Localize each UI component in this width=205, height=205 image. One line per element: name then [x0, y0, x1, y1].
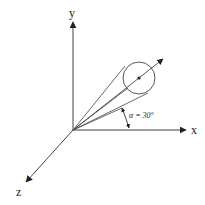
diagram-figure: y x z α = 30°: [0, 0, 205, 205]
cone-edge-upper: [73, 66, 125, 130]
z-axis-label: z: [16, 185, 21, 199]
angle-label: α = 30°: [129, 111, 155, 120]
figure-caption: [18, 199, 205, 205]
z-axis: [26, 130, 73, 182]
diagram-canvas: y x z α = 30°: [0, 0, 205, 205]
angle-arc: [122, 108, 129, 128]
x-axis-label: x: [191, 123, 197, 137]
y-axis-label: y: [69, 6, 75, 20]
